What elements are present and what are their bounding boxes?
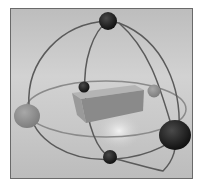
handle-left[interactable] [14,104,40,128]
handle-bottom[interactable] [103,150,117,164]
handle-top[interactable] [99,12,117,30]
rotation-gizmo [11,9,193,179]
viewport-frame [10,8,193,179]
handle-right-back[interactable] [148,85,161,98]
handle-right-front[interactable] [159,120,191,150]
handle-back[interactable] [79,82,90,93]
